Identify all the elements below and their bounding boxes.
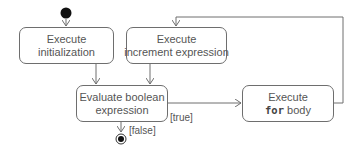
node-execute-for-body: Execute for body bbox=[242, 85, 334, 122]
node-label-line1: Execute bbox=[157, 33, 197, 46]
final-node-icon bbox=[116, 134, 126, 144]
node-execute-increment: Execute increment expression bbox=[126, 27, 227, 64]
guard-true: [true] bbox=[170, 112, 193, 123]
node-label-line1: Execute bbox=[268, 91, 308, 104]
connectors bbox=[0, 0, 358, 146]
node-label-line1: Evaluate boolean bbox=[79, 91, 164, 104]
node-label-line2: expression bbox=[95, 104, 148, 117]
node-label-line2: increment expression bbox=[124, 46, 229, 59]
for-keyword: for bbox=[265, 104, 284, 116]
node-label-line2: initialization bbox=[38, 46, 95, 59]
activity-diagram: Execute initialization Execute increment… bbox=[0, 0, 358, 146]
node-evaluate-boolean: Evaluate boolean expression bbox=[76, 85, 168, 122]
guard-false: [false] bbox=[129, 125, 156, 136]
node-label-rest: body bbox=[284, 104, 311, 116]
node-label-line1: Execute bbox=[47, 33, 87, 46]
node-label-line2: for body bbox=[265, 104, 311, 117]
start-node-icon bbox=[61, 8, 72, 19]
node-execute-initialization: Execute initialization bbox=[19, 27, 114, 64]
